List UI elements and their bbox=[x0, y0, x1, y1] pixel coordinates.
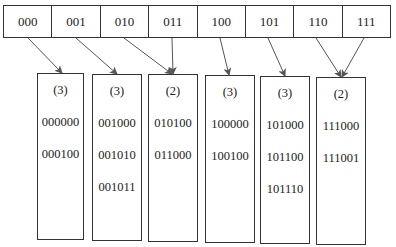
bucket-key: 100000 bbox=[206, 116, 254, 132]
bucket-key: 000100 bbox=[38, 146, 83, 162]
local-depth: (3) bbox=[38, 82, 83, 98]
bucket-4: (3) 100000 100100 bbox=[205, 75, 255, 243]
directory-cell-label: 000 bbox=[18, 14, 38, 30]
directory-cell-111: 111 bbox=[343, 6, 390, 37]
bucket-key: 101110 bbox=[261, 181, 309, 197]
directory-cell-100: 100 bbox=[198, 6, 246, 37]
directory-cell-label: 111 bbox=[357, 14, 376, 30]
bucket-5: (3) 101000 101100 101110 bbox=[260, 76, 310, 244]
bucket-key: 111000 bbox=[317, 118, 365, 134]
bucket-6: (2) 111000 111001 bbox=[316, 77, 366, 245]
bucket-key: 011000 bbox=[149, 147, 197, 163]
arrow-111 bbox=[342, 38, 364, 77]
local-depth: (2) bbox=[149, 83, 197, 99]
local-depth: (3) bbox=[206, 84, 254, 100]
bucket-1: (3) 000000 000100 bbox=[37, 73, 84, 240]
directory-cell-000: 000 bbox=[4, 6, 52, 37]
directory: 000 001 010 011 100 101 110 111 bbox=[3, 5, 391, 38]
bucket-key: 111001 bbox=[317, 150, 365, 166]
bucket-key: 100100 bbox=[206, 148, 254, 164]
bucket-key: 101000 bbox=[261, 117, 309, 133]
directory-cell-001: 001 bbox=[52, 6, 100, 37]
bucket-key: 001010 bbox=[93, 147, 141, 163]
arrow-100 bbox=[220, 38, 229, 75]
arrow-001 bbox=[76, 38, 117, 74]
arrow-010 bbox=[124, 38, 172, 74]
bucket-3: (2) 010100 011000 bbox=[148, 74, 198, 242]
directory-cell-110: 110 bbox=[294, 6, 342, 37]
bucket-key: 101100 bbox=[261, 149, 309, 165]
directory-cell-label: 011 bbox=[163, 14, 182, 30]
directory-cell-label: 001 bbox=[66, 14, 86, 30]
arrow-110 bbox=[316, 38, 341, 77]
directory-cell-010: 010 bbox=[101, 6, 149, 37]
directory-cell-label: 010 bbox=[115, 14, 135, 30]
bucket-key: 000000 bbox=[38, 114, 83, 130]
bucket-key: 001000 bbox=[93, 115, 141, 131]
directory-cell-011: 011 bbox=[149, 6, 197, 37]
arrow-011 bbox=[172, 38, 173, 74]
bucket-2: (3) 001000 001010 001011 bbox=[92, 74, 142, 241]
directory-cell-label: 110 bbox=[308, 14, 327, 30]
arrow-000 bbox=[28, 38, 62, 73]
bucket-key: 010100 bbox=[149, 115, 197, 131]
directory-cell-label: 101 bbox=[260, 14, 280, 30]
local-depth: (3) bbox=[261, 85, 309, 101]
directory-cell-101: 101 bbox=[246, 6, 294, 37]
local-depth: (3) bbox=[93, 83, 141, 99]
directory-cell-label: 100 bbox=[211, 14, 231, 30]
local-depth: (2) bbox=[317, 86, 365, 102]
bucket-key: 001011 bbox=[93, 179, 141, 195]
arrow-101 bbox=[268, 38, 285, 76]
